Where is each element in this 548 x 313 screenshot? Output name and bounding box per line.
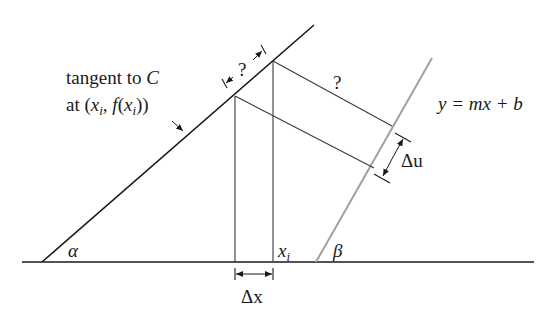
line-equation-label: y = mx + b [436,93,523,114]
projection-top [273,61,392,126]
beta-angle-label: β [332,240,343,261]
x-i-label: xi [277,240,290,264]
tangent-label-line1: tangent to C [66,67,159,88]
dimension-delta-x: Δx [235,268,273,307]
delta-x-label: Δx [241,286,263,307]
delta-u-label: Δu [401,150,423,171]
dimension-delta-u: Δu [374,133,423,183]
question-top-label: ? [238,59,246,80]
tangent-pointer-arrow [172,121,183,131]
question-mid-label: ? [333,72,341,93]
tangent-label-line2: at (xi, f(xi)) [66,94,149,118]
alpha-angle-label: α [68,240,79,261]
tangent-annotation: tangent to C at (xi, f(xi)) [66,67,183,131]
diagram-canvas: ? ? Δu Δx tangent to C at (xi, f(xi)) y … [0,0,548,313]
projection-bottom [235,96,374,168]
dimension-question-top: ? [222,45,266,88]
